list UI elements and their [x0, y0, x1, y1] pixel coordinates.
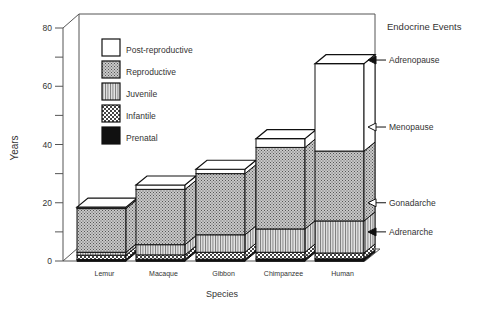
event-gonadarche: Gonadarche	[368, 198, 436, 208]
event-adrenopause: Adrenopause	[368, 55, 440, 65]
legend-label: Post-reproductive	[126, 45, 193, 55]
legend-label: Reproductive	[126, 67, 176, 77]
y-tick-label: 60	[43, 81, 53, 91]
legend-item: Infantile	[102, 105, 156, 122]
y-axis-label: Years	[9, 135, 20, 160]
y-tick-label: 0	[47, 256, 52, 266]
legend-swatch	[102, 127, 120, 144]
category-label: Chimpanzee	[264, 270, 303, 278]
legend: Post-reproductiveReproductiveJuvenileInf…	[102, 39, 193, 144]
y-tick-label: 80	[43, 23, 53, 33]
event-label: Adrenopause	[389, 55, 440, 65]
category-label: Gibbon	[212, 270, 235, 277]
event-menopause: Menopause	[368, 122, 434, 132]
endocrine-events: AdrenopauseMenopauseGonadarcheAdrenarche	[368, 55, 440, 237]
legend-swatch	[102, 61, 120, 78]
y-tick-label: 20	[43, 198, 53, 208]
legend-item: Post-reproductive	[102, 39, 193, 56]
category-label: Macaque	[149, 270, 178, 278]
bar-chimpanzee	[256, 130, 316, 261]
event-label: Adrenarche	[389, 227, 433, 237]
legend-label: Infantile	[126, 111, 156, 121]
legend-item: Prenatal	[102, 127, 158, 144]
bar-gibbon	[196, 160, 256, 261]
bar-human	[315, 55, 375, 261]
legend-label: Prenatal	[126, 133, 158, 143]
legend-swatch	[102, 105, 120, 122]
legend-swatch	[102, 39, 120, 56]
category-label: Lemur	[95, 270, 116, 277]
y-axis-ticks: 020406080	[43, 23, 63, 266]
legend-item: Juvenile	[102, 83, 157, 100]
y-tick-label: 40	[43, 140, 53, 150]
events-title: Endocrine Events	[387, 21, 462, 32]
bars	[77, 55, 375, 261]
x-axis-label: Species	[206, 289, 239, 299]
legend-item: Reproductive	[102, 61, 176, 78]
legend-swatch	[102, 83, 120, 100]
bar-lemur	[77, 198, 137, 261]
category-label: Human	[331, 270, 354, 277]
category-labels: LemurMacaqueGibbonChimpanzeeHuman	[95, 270, 354, 278]
bar-macaque	[136, 176, 196, 261]
event-label: Menopause	[389, 122, 434, 132]
legend-label: Juvenile	[126, 89, 157, 99]
event-label: Gonadarche	[389, 198, 436, 208]
event-adrenarche: Adrenarche	[368, 227, 433, 237]
chart-canvas: 020406080 Years Species Post-reproductiv…	[0, 0, 479, 311]
